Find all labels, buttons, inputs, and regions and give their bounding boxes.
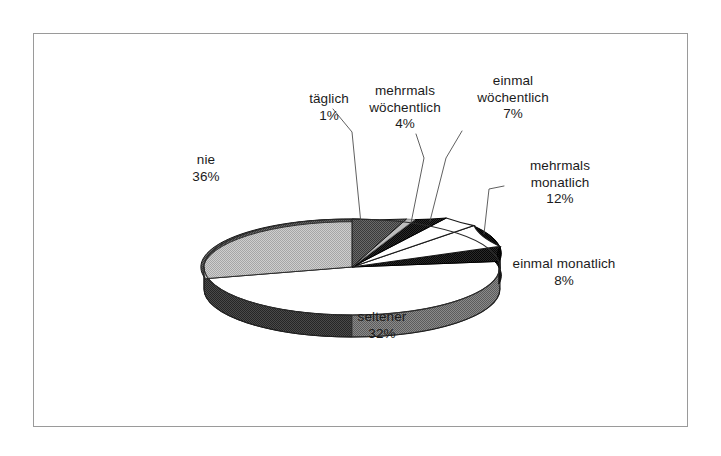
slice-label-mehrmals-woechentlich-percent: 4%: [349, 116, 461, 133]
slice-label-seltener: seltener 32%: [324, 309, 440, 342]
slice-label-mehrmals-monatlich-percent: 12%: [504, 191, 616, 208]
slice-label-einmal-monatlich-percent: 8%: [484, 273, 644, 290]
slice-label-nie: nie 36%: [166, 152, 246, 185]
slice-label-mehrmals-monatlich-name2: monatlich: [504, 175, 616, 192]
slice-label-mehrmals-monatlich: mehrmals monatlich 12%: [504, 158, 616, 208]
slice-label-nie-name: nie: [166, 152, 246, 169]
slice-label-seltener-name: seltener: [324, 309, 440, 326]
slice-label-einmal-monatlich: einmal monatlich 8%: [484, 256, 644, 289]
leader-line-einmal-woechentlich: [430, 131, 462, 221]
slice-label-einmal-monatlich-name: einmal monatlich: [484, 256, 644, 273]
slice-label-einmal-woechentlich-percent: 7%: [458, 106, 568, 123]
slice-label-mehrmals-woechentlich-name1: mehrmals: [349, 83, 461, 100]
slice-label-mehrmals-woechentlich: mehrmals wöchentlich 4%: [349, 83, 461, 133]
leader-line-mehrmals-monatlich: [484, 186, 504, 234]
pie-chart: täglich 1% mehrmals wöchentlich 4% einma…: [34, 34, 689, 428]
leader-line-mehrmals-woechentlich: [411, 134, 424, 223]
screenshot-canvas: täglich 1% mehrmals wöchentlich 4% einma…: [0, 0, 721, 456]
slice-label-mehrmals-monatlich-name1: mehrmals: [504, 158, 616, 175]
chart-frame: täglich 1% mehrmals wöchentlich 4% einma…: [33, 33, 688, 427]
slice-label-einmal-woechentlich-name1: einmal: [458, 73, 568, 90]
slice-label-einmal-woechentlich: einmal wöchentlich 7%: [458, 73, 568, 123]
slice-label-nie-percent: 36%: [166, 169, 246, 186]
slice-label-mehrmals-woechentlich-name2: wöchentlich: [349, 100, 461, 117]
slice-label-einmal-woechentlich-name2: wöchentlich: [458, 90, 568, 107]
slice-label-seltener-percent: 32%: [324, 326, 440, 343]
